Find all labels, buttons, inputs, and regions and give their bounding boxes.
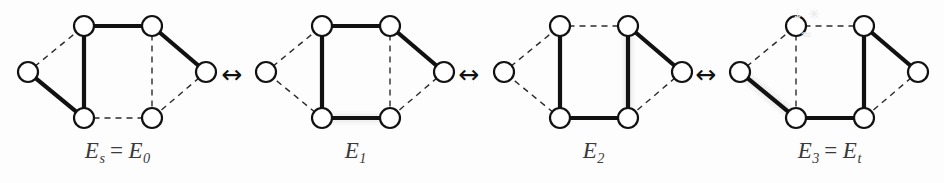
- graph-node-bottom-right: [380, 108, 400, 128]
- graph-edge-l-tl-dashed: [511, 31, 554, 66]
- transition-arrow-2: ↔: [686, 62, 726, 88]
- graph-node-bottom-left: [786, 108, 806, 128]
- graph-edge-l-tl-dashed: [747, 31, 790, 66]
- graph-panel-1: E1: [248, 0, 463, 183]
- graph-edge-tr-r-solid: [870, 32, 911, 67]
- graph-panel-3: E3=Et: [722, 0, 937, 183]
- graph-node-top-left: [550, 16, 570, 36]
- graph-node-right: [908, 62, 928, 82]
- graph-node-top-left: [74, 16, 94, 36]
- graph-node-top-right: [854, 16, 874, 36]
- graph-drawing-0: [10, 4, 225, 140]
- label-symbol-2: Et: [843, 138, 862, 163]
- graph-edge-tr-r-solid: [396, 32, 437, 67]
- graph-node-bottom-right: [618, 108, 638, 128]
- graph-edge-tr-r-solid: [634, 32, 675, 67]
- label-symbol: Es: [85, 138, 105, 163]
- graph-panel-0: Es=E0: [10, 0, 225, 183]
- label-symbol: E2: [583, 138, 605, 163]
- graph-edge-r-br-dashed: [158, 78, 199, 113]
- label-symbol: E1: [345, 138, 367, 163]
- edge-halo-bl-l: [749, 75, 792, 110]
- panel-label-1: E1: [248, 138, 463, 167]
- graph-node-bottom-left: [550, 108, 570, 128]
- graph-drawing-2: [486, 4, 701, 140]
- label-equals: =: [819, 138, 842, 163]
- graph-node-top-left: [786, 16, 806, 36]
- graph-node-top-right: [618, 16, 638, 36]
- graph-drawing-1: [248, 4, 463, 140]
- graph-node-top-left: [312, 16, 332, 36]
- transition-arrow-0: ↔: [212, 62, 252, 88]
- graph-edge-r-br-dashed: [634, 78, 675, 113]
- panel-label-0: Es=E0: [10, 138, 225, 167]
- graph-node-bottom-right: [854, 108, 874, 128]
- graph-node-bottom-left: [312, 108, 332, 128]
- graph-node-bottom-right: [142, 108, 162, 128]
- transition-arrow-1: ↔: [449, 62, 489, 88]
- graph-node-bottom-left: [74, 108, 94, 128]
- graph-panel-2: E2: [486, 0, 701, 183]
- edge-halo-bl-l: [751, 72, 794, 107]
- panel-label-3: E3=Et: [722, 138, 937, 167]
- graph-node-left: [730, 62, 750, 82]
- graph-node-left: [256, 62, 276, 82]
- graph-edge-r-br-dashed: [396, 78, 437, 113]
- graph-edge-r-br-dashed: [870, 78, 911, 113]
- edge-halo-bl-l: [750, 74, 793, 109]
- label-equals: =: [105, 138, 128, 163]
- graph-drawing-3: [722, 4, 937, 140]
- graph-edge-l-tl-dashed: [273, 31, 316, 66]
- graph-node-top-right: [380, 16, 400, 36]
- label-symbol: E3: [798, 138, 820, 163]
- graph-node-left: [18, 62, 38, 82]
- graph-node-top-right: [142, 16, 162, 36]
- graph-edge-l-tl-dashed: [35, 31, 78, 66]
- panel-label-2: E2: [486, 138, 701, 167]
- graph-node-left: [494, 62, 514, 82]
- graph-edge-bl-l-solid: [35, 77, 78, 112]
- graph-edge-tr-r-solid: [158, 32, 199, 67]
- graph-transformation-figure: Es=E0E1E2E3=Et↔↔↔⇣ ✳ ≈: [0, 0, 944, 183]
- graph-edge-bl-l-highlight: [747, 77, 790, 112]
- graph-edge-bl-l-dashed: [511, 77, 554, 112]
- label-symbol-2: E0: [128, 138, 150, 163]
- graph-edge-bl-l-dashed: [273, 77, 316, 112]
